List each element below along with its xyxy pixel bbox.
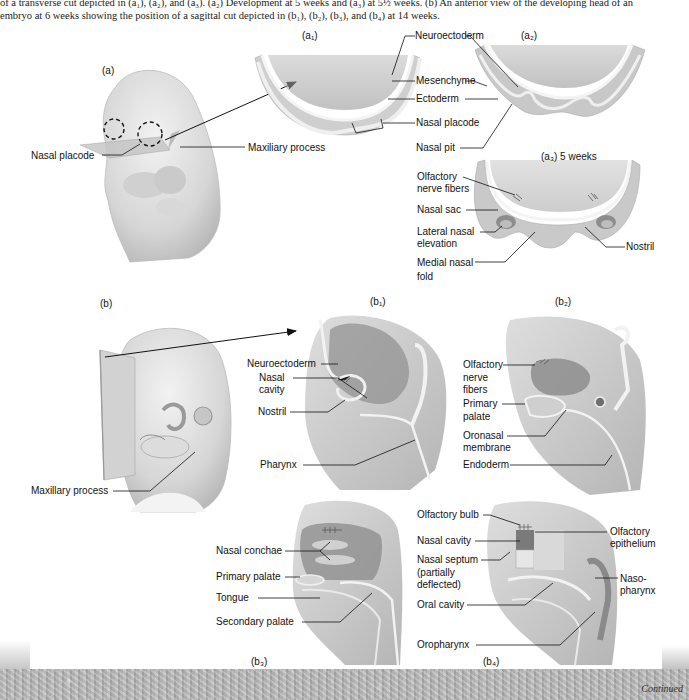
label-nasopharynx: Naso- pharynx: [620, 573, 656, 596]
label-nasal-placode-a1: Nasal placode: [416, 117, 479, 129]
label-olfactory-epithelium: Olfactory epithelium: [610, 526, 656, 549]
embryo-head-b-illustration: [100, 328, 296, 512]
footer-texture-band: [0, 669, 689, 700]
label-olfactory-bulb: Olfactory bulb: [417, 509, 479, 521]
panel-label-a2: (a₂): [521, 30, 537, 41]
label-nasal-pit: Nasal pit: [416, 142, 455, 154]
label-tongue: Tongue: [216, 592, 249, 604]
illustration-canvas: [0, 0, 689, 700]
label-oronasal-membrane: Oronasal membrane: [463, 430, 511, 453]
panel-label-b1: (b₁): [370, 296, 386, 307]
label-ectoderm: Ectoderm: [416, 93, 459, 105]
label-nasal-cavity-b4: Nasal cavity: [417, 535, 471, 547]
label-oral-cavity: Oral cavity: [417, 599, 464, 611]
sagittal-section-b3: [293, 501, 403, 665]
label-nostril-b1: Nostril: [258, 406, 286, 418]
label-neuroectoderm-a: Neuroectoderm: [415, 30, 484, 42]
label-nostril-a3: Nostril: [626, 241, 654, 253]
footer-texture-edge-left: [0, 640, 30, 670]
transverse-section-a2: [475, 45, 645, 116]
label-nasal-placode-a: Nasal placode: [31, 150, 94, 162]
panel-label-b: (b): [100, 298, 112, 309]
label-maxillary-process-b: Maxillary process: [31, 485, 108, 497]
label-maxillary-process-a: Maxiliary process: [248, 142, 325, 154]
label-primary-palate-b3: Primary palate: [216, 571, 280, 583]
continued-label: Continued: [641, 683, 683, 694]
embryo-head-a-illustration: [80, 70, 296, 262]
label-oropharynx: Oropharynx: [417, 639, 469, 651]
label-endoderm: Endoderm: [463, 459, 509, 471]
label-primary-palate-b2: Primary palate: [463, 398, 497, 423]
label-neuroectoderm-b1: Neuroectoderm: [247, 358, 316, 370]
label-nasal-sac: Nasal sac: [417, 204, 461, 216]
label-lateral-nasal-elevation: Lateral nasal elevation: [417, 226, 474, 249]
sagittal-section-b1: [305, 315, 446, 490]
panel-label-a3: (a₃) 5 weeks: [541, 151, 597, 162]
label-olfactory-nerve-fibers-b2: Olfactory nerve fibers: [463, 359, 503, 397]
label-mesenchyme: Mesenchyme: [416, 75, 475, 87]
panel-label-b2: (b₂): [555, 296, 571, 307]
sagittal-section-b2: [506, 316, 646, 495]
panel-label-b4: (b₄): [483, 656, 499, 667]
label-nasal-conchae: Nasal conchae: [216, 545, 282, 557]
label-medial-nasal-fold: Medial nasal fold: [417, 256, 473, 284]
footer-texture-edge-right: [662, 645, 689, 670]
panel-label-b3: (b₃): [251, 656, 267, 667]
label-nasal-septum: Nasal septum (partially deflected): [417, 554, 478, 592]
label-secondary-palate: Secondary palate: [216, 616, 294, 628]
label-pharynx: Pharynx: [260, 459, 297, 471]
label-olfactory-nerve-fibers-a3: Olfactory nerve fibers: [417, 171, 469, 194]
panel-label-a: (a): [102, 65, 114, 76]
panel-label-a1: (a₁): [302, 30, 318, 41]
transverse-section-a3: [474, 160, 640, 248]
label-nasal-cavity-b1: Nasal cavity: [259, 372, 285, 395]
